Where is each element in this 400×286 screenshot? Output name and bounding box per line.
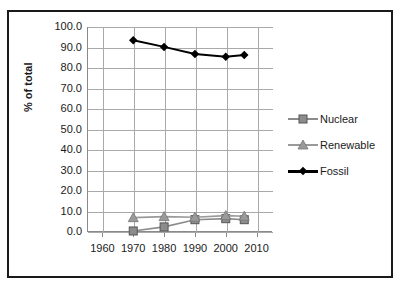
gridline-horizontal	[88, 27, 273, 28]
legend-marker-svg	[288, 111, 318, 127]
plot-wrapper: % of total 0.010.020.030.040.050.060.070…	[0, 0, 400, 286]
legend-label: Fossil	[320, 165, 349, 177]
y-tick-label: 20.0	[61, 185, 82, 196]
y-tick-label: 40.0	[61, 144, 82, 155]
y-tick-label: 60.0	[61, 103, 82, 114]
legend-marker-triangle-icon	[288, 137, 318, 153]
chart-figure: % of total 0.010.020.030.040.050.060.070…	[0, 0, 400, 286]
y-tick-label: 70.0	[61, 83, 82, 94]
y-tick-label: 30.0	[61, 165, 82, 176]
gridline-vertical	[134, 27, 135, 232]
legend-marker-svg	[288, 163, 318, 179]
gridline-vertical	[196, 27, 197, 232]
gridline-vertical	[227, 27, 228, 232]
legend-marker-square-icon	[288, 111, 318, 127]
legend-item-nuclear[interactable]: Nuclear	[288, 106, 392, 132]
x-tick-mark	[133, 233, 134, 237]
legend-item-renewable[interactable]: Renewable	[288, 132, 392, 158]
y-tick-label: 0.0	[67, 226, 82, 237]
y-tick-label: 50.0	[61, 124, 82, 135]
gridline-vertical	[103, 27, 104, 232]
x-tick-mark	[257, 233, 258, 237]
y-tick-label: 80.0	[61, 62, 82, 73]
gridline-horizontal	[88, 130, 273, 131]
x-tick-label: 2010	[237, 243, 277, 254]
gridline-horizontal	[88, 150, 273, 151]
gridline-vertical	[165, 27, 166, 232]
legend-marker-diamond-icon	[288, 163, 318, 179]
y-tick-label: 100.0	[54, 21, 82, 32]
y-tick-label: 10.0	[61, 206, 82, 217]
x-tick-mark	[164, 233, 165, 237]
chart-legend: NuclearRenewableFossil	[288, 106, 392, 184]
x-tick-mark	[102, 233, 103, 237]
legend-item-fossil[interactable]: Fossil	[288, 158, 392, 184]
gridline-horizontal	[88, 109, 273, 110]
gridline-vertical	[258, 27, 259, 232]
gridline-horizontal	[88, 191, 273, 192]
legend-label: Renewable	[320, 139, 375, 151]
gridline-horizontal	[88, 212, 273, 213]
gridline-horizontal	[88, 89, 273, 90]
plot-area	[87, 27, 272, 232]
gridline-horizontal	[88, 171, 273, 172]
legend-label: Nuclear	[320, 113, 358, 125]
gridline-horizontal	[88, 232, 273, 233]
y-tick-label: 90.0	[61, 42, 82, 53]
gridline-horizontal	[88, 48, 273, 49]
x-tick-mark	[195, 233, 196, 237]
x-tick-mark	[226, 233, 227, 237]
gridline-horizontal	[88, 68, 273, 69]
y-axis-title: % of total	[20, 96, 36, 112]
legend-marker-svg	[288, 137, 318, 153]
